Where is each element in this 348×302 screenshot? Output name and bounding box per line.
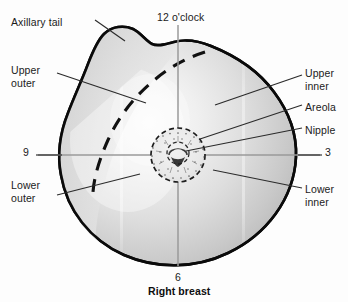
label-areola: Areola [305,101,336,114]
label-lower-inner-quadrant: Lower inner [305,183,334,208]
label-six-oclock: 6 [175,271,181,284]
label-nipple: Nipple [305,124,335,137]
label-lower-outer-quadrant: Lower outer [11,179,40,204]
label-three-oclock: 3 [325,146,331,159]
label-axillary-tail: Axillary tail [11,16,62,29]
label-twelve-oclock: 12 o'clock [157,11,204,24]
breast-anatomy-diagram: Axillary tail Upper outer Lower outer Up… [0,0,348,302]
label-upper-inner-quadrant: Upper inner [305,67,334,92]
label-upper-outer-quadrant: Upper outer [11,64,40,89]
label-nine-oclock: 9 [23,146,29,159]
figure-caption: Right breast [148,285,210,297]
diagram-artwork [0,0,348,302]
